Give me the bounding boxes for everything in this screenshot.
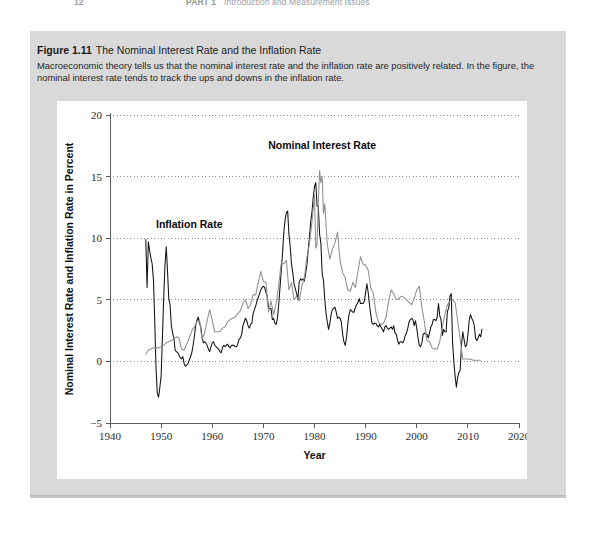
plot-panel: −505101520194019501960197019801990200020… bbox=[57, 101, 527, 479]
interest-inflation-line-chart: −505101520194019501960197019801990200020… bbox=[57, 101, 527, 479]
y-tick-label-0: 0 bbox=[97, 355, 103, 367]
y-tick-label-5: 5 bbox=[97, 294, 103, 306]
y-tick-label-20: 20 bbox=[91, 109, 103, 121]
x-tick-label-1980: 1980 bbox=[304, 430, 327, 442]
figure-caption-description: Macroeconomic theory tells us that the n… bbox=[37, 60, 548, 85]
y-axis-title: Nominal Interest Rate and Inflation Rate… bbox=[63, 142, 75, 395]
x-axis-title: Year bbox=[303, 449, 325, 461]
figure-title-text: The Nominal Interest Rate and the Inflat… bbox=[96, 44, 321, 56]
x-tick-label-1950: 1950 bbox=[150, 430, 173, 442]
figure-number: Figure 1.11 bbox=[37, 44, 92, 56]
x-tick-label-1990: 1990 bbox=[355, 430, 378, 442]
x-tick-label-2010: 2010 bbox=[457, 430, 480, 442]
x-tick-label-2020: 2020 bbox=[508, 430, 527, 442]
figure-caption: Figure 1.11The Nominal Interest Rate and… bbox=[37, 43, 553, 85]
x-tick-label-1960: 1960 bbox=[201, 430, 224, 442]
tick-labels: −505101520194019501960197019801990200020… bbox=[90, 109, 527, 442]
x-tick-label-1940: 1940 bbox=[99, 430, 122, 442]
annotation-inflation-rate: Inflation Rate bbox=[156, 218, 223, 230]
figure-caption-title: Figure 1.11The Nominal Interest Rate and… bbox=[37, 43, 553, 57]
running-head-part-label: PART 1 bbox=[186, 0, 216, 7]
series-annotations: Nominal Interest RateInflation Rate bbox=[156, 139, 376, 230]
data-series bbox=[146, 170, 482, 397]
annotation-nominal-interest-rate: Nominal Interest Rate bbox=[268, 139, 376, 151]
y-tick-label--5: −5 bbox=[90, 417, 102, 429]
x-tick-label-1970: 1970 bbox=[252, 430, 275, 442]
running-head: 12 PART 1 Introduction and Measurement I… bbox=[0, 0, 593, 9]
running-head-part-title: Introduction and Measurement Issues bbox=[224, 0, 370, 7]
series-inflation-rate bbox=[146, 183, 482, 397]
x-tick-label-2000: 2000 bbox=[406, 430, 429, 442]
y-tick-label-15: 15 bbox=[91, 171, 103, 183]
y-tick-label-10: 10 bbox=[91, 232, 103, 244]
figure-panel: Figure 1.11The Nominal Interest Rate and… bbox=[30, 31, 566, 495]
page-number: 12 bbox=[74, 0, 83, 7]
